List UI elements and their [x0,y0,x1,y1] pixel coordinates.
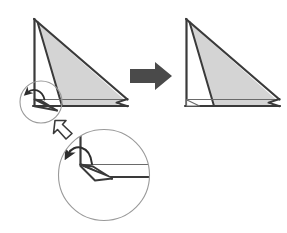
origami-figure-canvas [0,0,287,233]
transform-arrow [130,62,172,90]
before-panel [20,19,128,123]
after-panel [185,19,280,106]
detail-pointer-arrow [54,121,73,140]
transform-arrow-shape [130,62,172,90]
detail-magnified-view [59,130,161,221]
detail-pointer-shape [54,121,73,140]
origami-diagram: Origami fold instruction diagram Right t… [0,0,287,233]
